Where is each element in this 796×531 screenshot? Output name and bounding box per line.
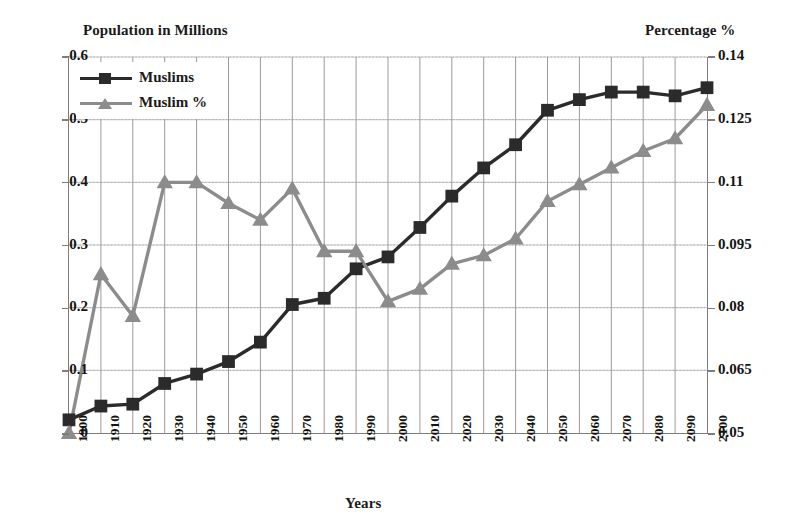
- secondary-y-tick-mark: [708, 308, 715, 310]
- secondary-y-axis-title: Percentage %: [645, 22, 735, 39]
- legend-label-muslim-percent: Muslim %: [139, 94, 207, 111]
- x-axis-title: Years: [345, 495, 381, 512]
- x-tick-label: 1960: [267, 415, 283, 442]
- primary-y-tick-label: 0.2: [69, 298, 88, 315]
- x-tick-label: 2050: [555, 415, 571, 442]
- primary-y-tick-mark: [62, 119, 69, 121]
- x-tick-label: 2030: [491, 415, 507, 442]
- x-tick-label: 1980: [331, 415, 347, 442]
- secondary-y-tick-mark: [708, 56, 715, 58]
- primary-y-tick-mark: [62, 245, 69, 247]
- secondary-y-tick-label: 0.125: [718, 110, 752, 127]
- primary-y-tick-mark: [62, 56, 69, 58]
- x-tick-label: 2040: [523, 415, 539, 442]
- square-marker-icon: [80, 71, 132, 85]
- primary-y-axis-title: Population in Millions: [83, 22, 228, 39]
- secondary-y-tick-mark: [708, 433, 715, 435]
- primary-y-tick-label: 0.1: [69, 361, 88, 378]
- x-tick-label: 1940: [203, 415, 219, 442]
- primary-y-tick-label: 0.3: [69, 236, 88, 253]
- x-tick-label: 2090: [683, 415, 699, 442]
- primary-y-tick-label: 0.4: [69, 173, 88, 190]
- x-tick-label: 2060: [587, 415, 603, 442]
- chart-container: Population in Millions Percentage % Year…: [0, 0, 796, 531]
- secondary-y-tick-mark: [708, 245, 715, 247]
- legend-item-muslims: Muslims: [80, 65, 222, 90]
- triangle-marker-icon: [80, 96, 132, 110]
- x-tick-label: 2080: [651, 415, 667, 442]
- x-tick-label: 1990: [363, 415, 379, 442]
- legend-label-muslims: Muslims: [139, 69, 194, 86]
- x-tick-label: 2010: [427, 415, 443, 442]
- primary-y-tick-mark: [62, 182, 69, 184]
- secondary-y-tick-label: 0.11: [718, 173, 743, 190]
- secondary-y-tick-mark: [708, 182, 715, 184]
- legend-item-muslim-percent: Muslim %: [80, 90, 222, 115]
- x-tick-label: 1910: [107, 415, 123, 442]
- secondary-y-tick-label: 0.065: [718, 361, 752, 378]
- secondary-y-tick-label: 0.095: [718, 236, 752, 253]
- x-tick-label: 2020: [459, 415, 475, 442]
- x-tick-label: 1970: [299, 415, 315, 442]
- x-tick-label: 1950: [235, 415, 251, 442]
- primary-y-tick-mark: [62, 433, 69, 435]
- secondary-y-tick-label: 0.14: [718, 47, 744, 64]
- secondary-y-tick-label: 0.08: [718, 298, 744, 315]
- primary-y-tick-mark: [62, 308, 69, 310]
- x-tick-label: 2070: [619, 415, 635, 442]
- primary-y-tick-mark: [62, 370, 69, 372]
- x-tick-label: 2000: [395, 415, 411, 442]
- secondary-y-tick-mark: [708, 370, 715, 372]
- x-tick-label: 2100: [715, 415, 731, 442]
- chart-legend: Muslims Muslim %: [76, 62, 226, 119]
- x-tick-label: 1930: [171, 415, 187, 442]
- x-tick-label: 1920: [139, 415, 155, 442]
- secondary-y-tick-mark: [708, 119, 715, 121]
- x-tick-label: 1900: [75, 415, 91, 442]
